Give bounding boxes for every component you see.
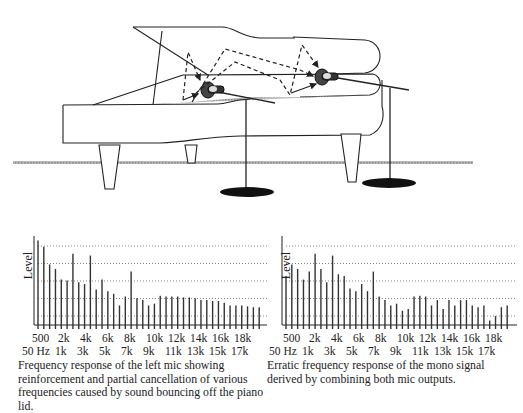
tick-label: 13k [434,345,456,357]
tick-label: 13k [187,345,209,357]
tick-label: 500 [32,332,58,344]
tick-label: 4k [331,332,353,344]
tick-label: 10k [146,332,168,344]
left-chart-lower-ticks: 50 Hz1k3k5k7k9k11k13k15k17k [22,345,253,357]
tick-label: 16k [463,332,485,344]
tick-label: 4k [80,332,102,344]
right-chart-lower-ticks: 50 Hz1k3k5k7k9k11k13k15k17k [269,345,500,357]
tick-label: 18k [485,332,507,344]
tick-label: 2k [58,332,80,344]
tick-label: 7k [121,345,143,357]
tick-label: 5k [99,345,121,357]
mono-frequency-chart: Level [270,228,523,338]
tick-label: 12k [419,332,441,344]
tick-label: 3k [77,345,99,357]
right-chart-caption: Erratic frequency response of the mono s… [267,359,517,386]
tick-label: 17k [478,345,500,357]
tick-label: 500 [283,332,309,344]
tick-label: 15k [209,345,231,357]
tick-label: 1k [302,345,324,357]
tick-label: 18k [234,332,256,344]
tick-label: 12k [168,332,190,344]
mic-stand-bases [220,178,416,197]
tick-label: 10k [397,332,419,344]
tick-label: 50 Hz [22,345,55,357]
left-mic-frequency-chart: Level [12,228,267,338]
piano-illustration [0,0,523,225]
left-chart-caption: Frequency response of the left mic showi… [18,359,268,413]
tick-label: 8k [124,332,146,344]
tick-label: 9k [390,345,412,357]
left-chart-ylabel: Level [21,246,36,286]
floor-line [13,161,473,164]
left-mic [201,82,224,98]
left-bar-chart [12,228,267,338]
tick-label: 16k [212,332,234,344]
tick-label: 11k [165,345,187,357]
tick-label: 50 Hz [269,345,302,357]
right-chart-ylabel: Level [279,246,294,286]
tick-label: 14k [190,332,212,344]
tick-label: 6k [353,332,375,344]
tick-label: 17k [231,345,253,357]
tick-label: 5k [346,345,368,357]
tick-label: 7k [368,345,390,357]
right-mic [315,69,338,85]
tick-label: 9k [143,345,165,357]
tick-label: 1k [55,345,77,357]
tick-label: 15k [456,345,478,357]
tick-label: 2k [309,332,331,344]
right-chart-upper-ticks: 5002k4k6k8k10k12k14k16k18k [283,332,507,344]
mic-stands [218,77,409,192]
right-bar-chart [270,228,523,338]
tick-label: 14k [441,332,463,344]
tick-label: 8k [375,332,397,344]
tick-label: 11k [412,345,434,357]
left-chart-upper-ticks: 5002k4k6k8k10k12k14k16k18k [32,332,256,344]
tick-label: 3k [324,345,346,357]
tick-label: 6k [102,332,124,344]
